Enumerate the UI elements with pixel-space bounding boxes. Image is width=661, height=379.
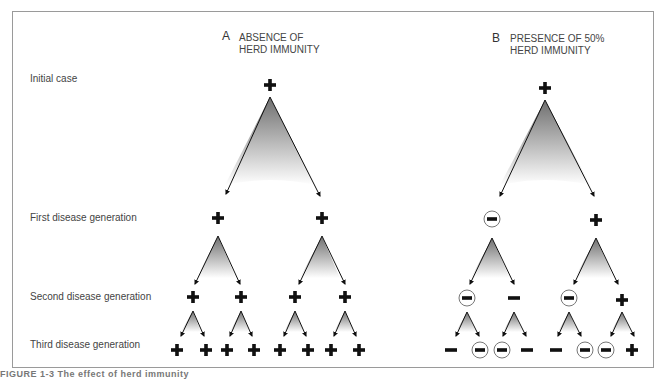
- figure-caption: FIGURE 1-3 The effect of herd immunity: [0, 369, 189, 379]
- plus-icon: [539, 82, 551, 94]
- tree-b: [445, 82, 638, 358]
- immune-icon: [459, 290, 475, 306]
- minus-icon: [508, 296, 520, 300]
- immune-icon: [484, 211, 500, 227]
- plus-icon: [316, 212, 328, 224]
- plus-icon: [187, 291, 199, 303]
- immune-icon: [561, 290, 577, 306]
- plus-icon: [590, 214, 602, 226]
- tree-a: [171, 79, 365, 356]
- plus-icon: [616, 294, 628, 306]
- plus-icon: [289, 291, 301, 303]
- plus-icon: [264, 79, 276, 91]
- plus-icon: [212, 212, 224, 224]
- plus-icon: [339, 291, 351, 303]
- plus-icon: [235, 291, 247, 303]
